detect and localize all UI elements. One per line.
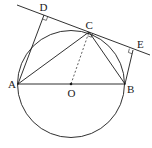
label-c: C <box>86 19 93 31</box>
label-a: A <box>8 78 16 90</box>
label-e: E <box>137 38 144 50</box>
label-o: O <box>68 87 76 99</box>
point-a <box>17 83 19 85</box>
segment-oc-dashed <box>71 32 89 84</box>
segment-be <box>125 50 133 84</box>
label-b: B <box>127 83 134 95</box>
segment-ad <box>18 15 44 84</box>
segment-ac <box>18 32 89 84</box>
point-b <box>124 83 126 85</box>
right-angle-marker-e <box>128 49 132 54</box>
center-point-o <box>70 83 73 86</box>
tangent-line <box>17 5 150 55</box>
geometry-diagram: D C E A B O <box>0 0 152 148</box>
label-d: D <box>40 1 48 13</box>
segment-bc <box>89 32 125 84</box>
